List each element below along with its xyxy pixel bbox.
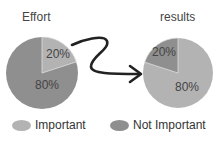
important-swatch-icon [12, 120, 31, 131]
results-pie: 20% 80% [143, 38, 213, 108]
not-important-swatch-icon [110, 120, 129, 131]
legend-label-important: Important [35, 118, 86, 132]
effort-large-label: 80% [35, 78, 59, 92]
curved-arrow-icon [72, 38, 141, 82]
effort-small-label: 20% [46, 47, 70, 61]
legend-item-not-important: Not Important [110, 118, 206, 132]
results-small-label: 20% [152, 45, 176, 59]
legend-label-not-important: Not Important [133, 118, 206, 132]
results-large-label: 80% [175, 80, 199, 94]
effort-pie: 20% 80% [6, 37, 78, 109]
legend-item-important: Important [12, 118, 86, 132]
